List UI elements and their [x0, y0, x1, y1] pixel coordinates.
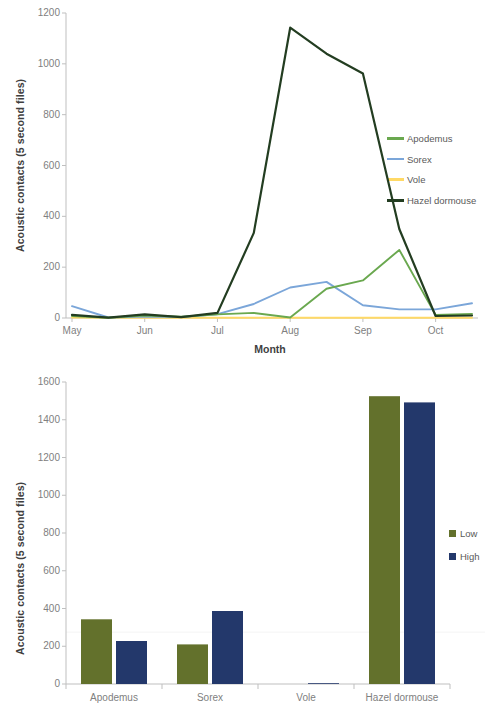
- bar-chart-plot: [0, 360, 488, 719]
- line-chart-figure: Acoustic contacts (5 second files) Month…: [0, 0, 488, 360]
- bar-chart-figure: Acoustic contacts (5 second files) 16001…: [0, 360, 488, 719]
- line-chart-plot: [0, 0, 488, 360]
